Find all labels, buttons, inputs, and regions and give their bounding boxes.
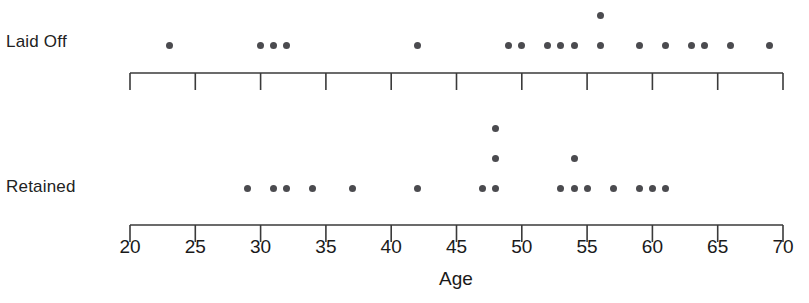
- data-point: [557, 42, 564, 49]
- data-point: [244, 185, 251, 192]
- data-point: [349, 185, 356, 192]
- data-point: [662, 185, 669, 192]
- data-point: [492, 125, 499, 132]
- data-point: [505, 42, 512, 49]
- data-point: [636, 42, 643, 49]
- data-point: [544, 42, 551, 49]
- top-axis: [130, 73, 783, 90]
- group-label-retained: Retained: [6, 177, 76, 197]
- data-point: [584, 185, 591, 192]
- x-tick-label: 30: [250, 236, 271, 258]
- x-tick-label: 45: [446, 236, 467, 258]
- x-tick-label: 40: [381, 236, 402, 258]
- x-axis-title: Age: [439, 268, 473, 290]
- data-point: [571, 185, 578, 192]
- data-point: [492, 185, 499, 192]
- data-point: [766, 42, 773, 49]
- data-point: [701, 42, 708, 49]
- dot-plot-figure: Laid Off Retained 2025303540455055606570…: [0, 0, 809, 303]
- data-point: [688, 42, 695, 49]
- data-point: [414, 185, 421, 192]
- data-point: [479, 185, 486, 192]
- group-label-laid-off: Laid Off: [6, 32, 67, 52]
- x-tick-label: 55: [577, 236, 598, 258]
- data-point: [166, 42, 173, 49]
- x-tick-label: 35: [315, 236, 336, 258]
- data-point: [597, 12, 604, 19]
- data-point: [283, 185, 290, 192]
- x-tick-label: 50: [511, 236, 532, 258]
- data-point: [571, 42, 578, 49]
- data-point: [283, 42, 290, 49]
- data-point: [662, 42, 669, 49]
- data-point: [270, 185, 277, 192]
- data-point: [727, 42, 734, 49]
- data-point: [414, 42, 421, 49]
- x-tick-label: 20: [119, 236, 140, 258]
- x-tick-label: 70: [772, 236, 793, 258]
- data-point: [492, 155, 499, 162]
- data-point: [518, 42, 525, 49]
- data-point: [270, 42, 277, 49]
- data-point: [597, 42, 604, 49]
- data-point: [309, 185, 316, 192]
- data-point: [257, 42, 264, 49]
- x-tick-label: 25: [185, 236, 206, 258]
- data-point: [557, 185, 564, 192]
- data-point: [649, 185, 656, 192]
- x-tick-label: 60: [642, 236, 663, 258]
- data-point: [571, 155, 578, 162]
- x-tick-label: 65: [707, 236, 728, 258]
- data-point: [636, 185, 643, 192]
- data-point: [610, 185, 617, 192]
